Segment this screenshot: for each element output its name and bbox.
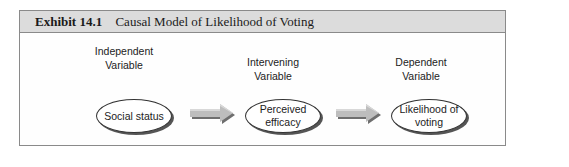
exhibit-title: Causal Model of Likelihood of Voting <box>115 14 313 29</box>
node-perceived-efficacy: Perceived efficacy <box>245 99 321 133</box>
label-line: Variable <box>361 69 481 83</box>
node-text: Perceived <box>260 103 307 116</box>
label-line: Dependent <box>361 55 481 69</box>
node-text: Social status <box>104 110 164 123</box>
node-likelihood-of-voting: Likelihood of voting <box>391 99 467 133</box>
node-ellipse: Likelihood of voting <box>391 99 467 133</box>
intervening-variable-label: Intervening Variable <box>213 55 333 83</box>
node-social-status: Social status <box>96 99 172 133</box>
node-text: voting <box>400 116 459 129</box>
node-ellipse: Social status <box>96 99 172 133</box>
independent-variable-label: Independent Variable <box>64 44 184 72</box>
label-line: Variable <box>213 69 333 83</box>
label-line: Variable <box>64 58 184 72</box>
dependent-variable-label: Dependent Variable <box>361 55 481 83</box>
exhibit-header: Exhibit 14.1 Causal Model of Likelihood … <box>20 11 505 33</box>
node-text: Likelihood of <box>400 103 459 116</box>
arrow-right-icon <box>190 104 236 124</box>
label-line: Intervening <box>213 55 333 69</box>
node-ellipse: Perceived efficacy <box>245 99 321 133</box>
exhibit-number: Exhibit 14.1 <box>35 14 102 29</box>
label-line: Independent <box>64 44 184 58</box>
arrow-right-icon <box>336 104 382 124</box>
node-text: efficacy <box>260 116 307 129</box>
